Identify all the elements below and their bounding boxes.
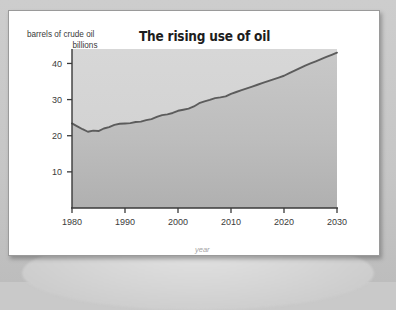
x-tick-label: 1980 bbox=[62, 217, 82, 227]
y-tick-label: 40 bbox=[52, 59, 62, 69]
x-tick-label: 1990 bbox=[115, 217, 135, 227]
y-tick-label: 10 bbox=[52, 167, 62, 177]
y-axis-ticks: 10203040 bbox=[52, 59, 72, 177]
x-tick-label: 2020 bbox=[274, 217, 294, 227]
chart-card: barrels of crude oil billions The rising… bbox=[8, 10, 380, 256]
x-tick-label: 2000 bbox=[168, 217, 188, 227]
y-tick-label: 20 bbox=[52, 131, 62, 141]
x-axis-label: year bbox=[195, 245, 210, 254]
y-tick-label: 30 bbox=[52, 95, 62, 105]
x-tick-label: 2010 bbox=[221, 217, 241, 227]
x-tick-label: 2030 bbox=[327, 217, 347, 227]
chart-plot: 10203040 198019902000201020202030 bbox=[9, 11, 381, 257]
x-axis-ticks: 198019902000201020202030 bbox=[62, 208, 347, 227]
